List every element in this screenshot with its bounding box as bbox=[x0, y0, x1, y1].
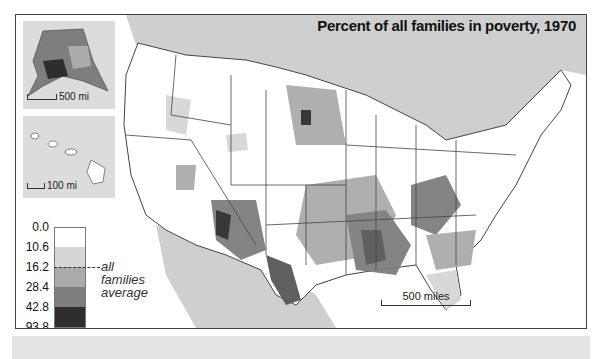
average-label-line2: average bbox=[101, 286, 148, 299]
main-scale: 500 miles bbox=[381, 290, 471, 306]
legend-break-0: 0.0 bbox=[19, 220, 49, 234]
hawaii-scale-label: 100 mi bbox=[47, 180, 77, 191]
legend-break-3: 28.4 bbox=[19, 280, 49, 294]
legend-swatch-2 bbox=[54, 267, 86, 287]
alaska-inset: 500 mi bbox=[23, 21, 115, 109]
legend-break-5: 93.8 bbox=[19, 320, 49, 329]
average-marker-line bbox=[54, 267, 100, 268]
map-title: Percent of all families in poverty, 1970 bbox=[317, 17, 576, 34]
legend-swatch-3 bbox=[54, 287, 86, 307]
hawaii-inset: 100 mi bbox=[23, 116, 115, 198]
average-label-line1: all families bbox=[101, 260, 148, 286]
map-frame: Percent of all families in poverty, 1970… bbox=[15, 14, 587, 329]
hawaii-scale-bar bbox=[27, 183, 45, 189]
legend-break-1: 10.6 bbox=[19, 240, 49, 254]
legend-swatch-1 bbox=[54, 247, 86, 267]
alaska-scale: 500 mi bbox=[27, 91, 89, 102]
hawaii-scale: 100 mi bbox=[27, 180, 77, 191]
average-label: all families average bbox=[101, 260, 148, 299]
alaska-scale-label: 500 mi bbox=[59, 91, 89, 102]
legend-break-4: 42.8 bbox=[19, 300, 49, 314]
legend-swatch-0 bbox=[54, 227, 86, 248]
bottom-strip bbox=[12, 336, 590, 359]
alaska-scale-bar bbox=[27, 94, 57, 100]
legend-swatch-4 bbox=[54, 307, 86, 328]
legend-break-2: 16.2 bbox=[19, 260, 49, 274]
